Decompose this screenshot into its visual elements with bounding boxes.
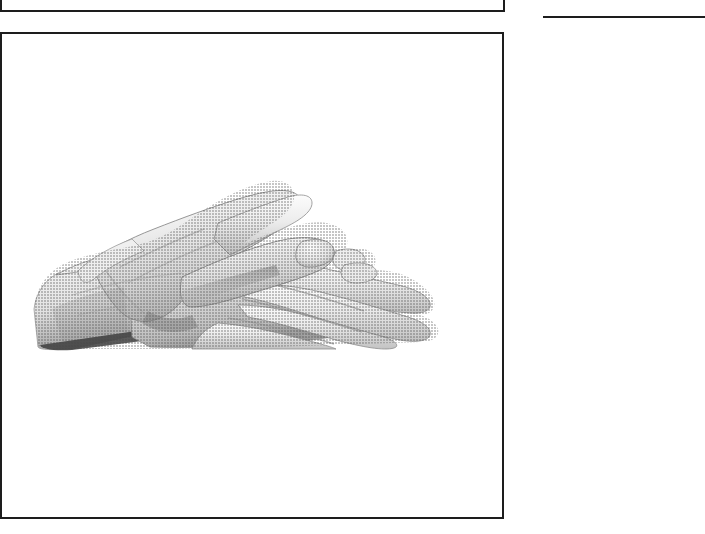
scanned-page bbox=[0, 0, 705, 534]
main-illustration-frame bbox=[0, 32, 504, 519]
figure-plate bbox=[2, 34, 502, 517]
two-hands-sign-icon bbox=[32, 159, 462, 359]
cropped-figure-frame-above bbox=[0, 0, 505, 12]
halftone-screen-group bbox=[32, 159, 462, 359]
right-column-rule bbox=[543, 16, 705, 18]
hands-photograph-svg bbox=[32, 159, 462, 359]
